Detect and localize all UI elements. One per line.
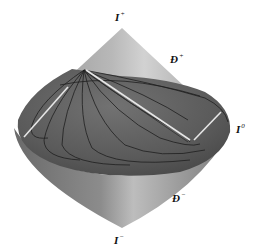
label-past-null-infinity: Đ−: [172, 192, 186, 204]
label-spatial-infinity: I0: [236, 123, 245, 135]
label-future-timelike-infinity: I+: [115, 11, 125, 23]
penrose-diagram: I+ Đ+ I0 Đ− I−: [0, 0, 258, 247]
label-future-null-infinity: Đ+: [170, 53, 184, 65]
label-past-timelike-infinity: I−: [114, 234, 124, 246]
penrose-diagram-graphic: [0, 0, 258, 247]
